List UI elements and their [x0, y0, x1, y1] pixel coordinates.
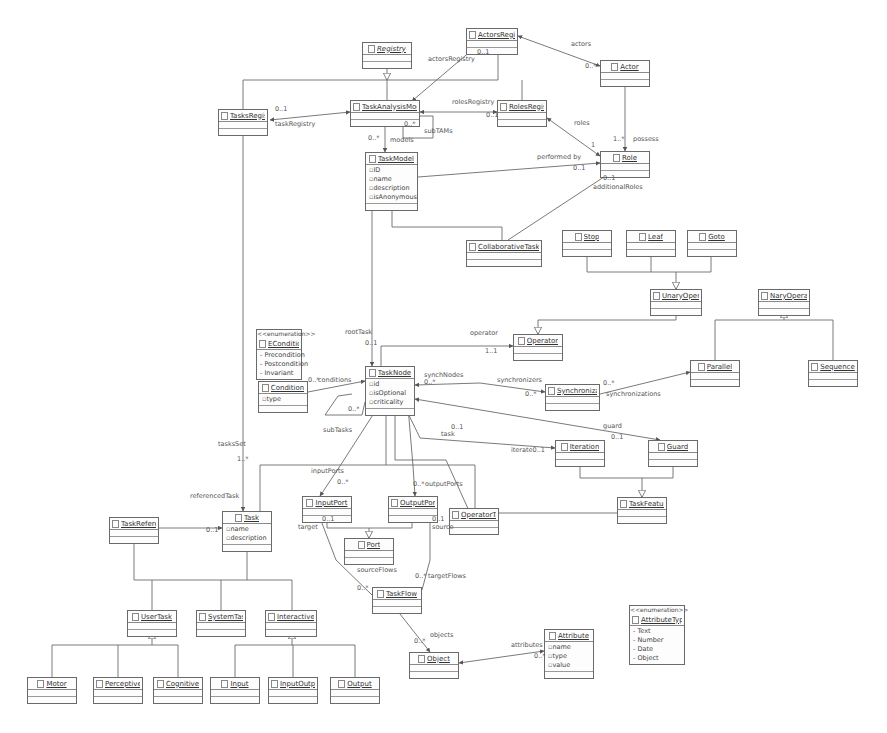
class-motor[interactable]: Motor	[27, 677, 77, 704]
class-iteration[interactable]: Iteration	[555, 440, 605, 467]
class-rolesregistry[interactable]: RolesRegistry	[497, 100, 547, 127]
class-taskfeature[interactable]: TaskFeature	[617, 497, 667, 524]
class-attribute[interactable]: Attributenametypevalue	[544, 629, 594, 679]
class-name: InputOutput	[280, 680, 315, 688]
class-operator[interactable]: Operator	[513, 334, 563, 361]
class-taskflow[interactable]: TaskFlow	[372, 587, 422, 614]
class-sequence[interactable]: Sequence	[808, 360, 858, 387]
class-registry[interactable]: Registry	[362, 42, 412, 69]
enum-icon	[259, 340, 266, 348]
operations-compartment	[128, 630, 176, 636]
class-port[interactable]: Port	[344, 538, 394, 565]
operations-compartment	[223, 545, 271, 551]
attribute: isAnonymous	[369, 193, 414, 202]
class-cognitive[interactable]: Cognitive	[153, 677, 203, 704]
class-parallel[interactable]: Parallel	[690, 360, 740, 387]
class-taskreference[interactable]: TaskReference	[109, 517, 159, 544]
class-goto[interactable]: Goto	[687, 230, 737, 257]
class-icon	[811, 363, 818, 371]
role-label: referencedTask	[190, 492, 239, 500]
class-condition[interactable]: Conditiontype	[258, 381, 308, 413]
attributes-compartment	[154, 690, 202, 697]
class-icon	[235, 514, 242, 522]
association-line	[405, 407, 555, 448]
attributes-compartment	[266, 623, 316, 630]
class-actor[interactable]: Actor	[600, 60, 650, 87]
operations-compartment	[410, 672, 458, 678]
class-name: UserTask	[141, 613, 172, 621]
enum-attributetype[interactable]: <<enumeration>>AttributeTypeTextNumberDa…	[629, 605, 685, 665]
attributes-compartment: idisOptionalcriticality	[366, 379, 414, 409]
class-tasknode[interactable]: TaskNodeidisOptionalcriticality	[365, 366, 415, 416]
class-name: Input	[230, 680, 248, 688]
class-object[interactable]: Object	[409, 652, 459, 679]
class-naryoperator[interactable]: NaryOperator	[758, 289, 810, 316]
operations-compartment	[545, 672, 593, 678]
class-leaf[interactable]: Leaf	[626, 230, 676, 257]
association-line	[52, 645, 178, 677]
role-label: 0..*	[308, 376, 320, 384]
class-task[interactable]: Tasknamedescription	[222, 511, 272, 552]
class-header: Motor	[28, 678, 76, 690]
operations-compartment	[389, 516, 437, 522]
role-label: 0..1	[365, 339, 377, 347]
operations-compartment	[651, 309, 701, 315]
attributes-compartment	[556, 453, 604, 460]
class-header: Goto	[688, 231, 736, 243]
class-synchronization[interactable]: Synchronization	[545, 384, 600, 411]
class-header: Synchronization	[546, 385, 599, 397]
role-label: objects	[430, 631, 453, 639]
class-output[interactable]: Output	[330, 677, 380, 704]
class-perceptive[interactable]: Perceptive	[93, 677, 143, 704]
class-operatortask[interactable]: OperatorTask	[449, 508, 499, 535]
class-icon	[658, 443, 665, 451]
attribute: id	[369, 380, 411, 389]
attributes-compartment	[197, 623, 245, 630]
operations-compartment	[94, 697, 142, 703]
class-systemtask[interactable]: SystemTask	[196, 610, 246, 637]
role-label: 0..*	[415, 572, 427, 580]
class-name: NaryOperator	[770, 292, 807, 300]
attributes-compartment	[363, 55, 411, 62]
role-label: operator	[470, 329, 498, 337]
operations-compartment	[809, 380, 857, 386]
class-stop[interactable]: Stop	[562, 230, 612, 257]
class-name: Perceptive	[105, 680, 140, 688]
class-header: Role	[601, 152, 649, 164]
role-label: 1	[591, 141, 595, 149]
class-icon	[262, 384, 269, 392]
role-label: 0..*	[357, 584, 369, 592]
class-actorsregistry[interactable]: ActorsRegistry	[466, 28, 518, 55]
class-header: InputPort	[303, 497, 351, 509]
class-name: Port	[367, 541, 381, 549]
class-name: Stop	[584, 233, 600, 241]
class-icon	[268, 613, 275, 621]
role-label: 0..*	[348, 405, 360, 413]
class-header: InputOutput	[269, 678, 317, 690]
enum-econditiontype[interactable]: <<enumeration>>EConditionTypePreconditio…	[256, 329, 302, 380]
enum-literal: Text	[633, 627, 681, 636]
class-tasksregistry[interactable]: TasksRegistry	[218, 109, 268, 136]
operations-compartment	[211, 697, 259, 703]
class-outputport[interactable]: OutputPort	[388, 496, 438, 523]
class-usertask[interactable]: UserTask	[127, 610, 177, 637]
class-name: Motor	[46, 680, 66, 688]
class-interactivetask[interactable]: InteractiveTask	[265, 610, 317, 637]
class-header: TasksRegistry	[219, 110, 267, 122]
class-input[interactable]: Input	[210, 677, 260, 704]
operations-compartment	[556, 460, 604, 466]
attribute: type	[548, 652, 590, 661]
class-icon	[549, 632, 556, 640]
attributes-compartment	[331, 690, 379, 697]
class-header: Input	[211, 678, 259, 690]
class-name: UnaryOperator	[662, 292, 699, 300]
class-collaborativetaskmodel[interactable]: CollaborativeTaskModel	[466, 240, 542, 267]
association-line	[459, 651, 544, 663]
class-taskmodel[interactable]: TaskModelIDnamedescriptionisAnonymous	[365, 152, 418, 211]
class-inputoutput[interactable]: InputOutput	[268, 677, 318, 704]
class-guard[interactable]: Guard	[648, 440, 698, 467]
class-unaryoperator[interactable]: UnaryOperator	[650, 289, 702, 316]
association-line	[270, 112, 350, 120]
attributes-compartment	[373, 600, 421, 607]
attributes-compartment	[809, 373, 857, 380]
